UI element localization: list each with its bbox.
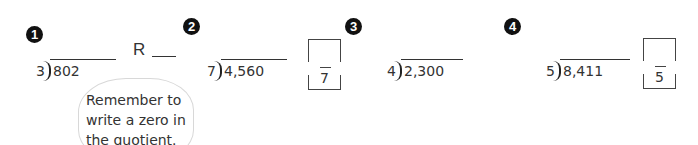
division-problem-3: 4 2,300 xyxy=(387,62,487,92)
quotient-line[interactable] xyxy=(401,59,463,60)
fraction-bar xyxy=(320,67,331,68)
box-edge xyxy=(308,89,341,90)
dividend: 4,560 xyxy=(224,62,264,80)
quotient-line[interactable] xyxy=(560,59,630,60)
hint-text: Remember to write a zero in the quotient… xyxy=(86,90,192,145)
remainder-fraction-box-4[interactable]: 5 xyxy=(643,38,676,89)
dividend: 802 xyxy=(53,62,80,80)
problem-number-badge-1: 1 xyxy=(26,26,43,43)
fraction-denominator: 5 xyxy=(643,69,676,86)
fraction-denominator: 7 xyxy=(308,70,341,87)
quotient-line[interactable] xyxy=(221,59,287,60)
dividend: 8,411 xyxy=(563,62,603,80)
box-edge xyxy=(308,39,309,62)
problem-number-badge-2: 2 xyxy=(183,18,200,35)
fraction-bar xyxy=(655,66,666,67)
division-bracket-icon xyxy=(553,61,561,81)
division-bracket-icon xyxy=(43,61,51,81)
remainder-label: R xyxy=(133,40,145,60)
box-edge xyxy=(675,38,676,61)
box-edge xyxy=(643,38,644,61)
dividend: 2,300 xyxy=(404,62,444,80)
problem-number-badge-3: 3 xyxy=(345,18,362,35)
box-edge xyxy=(308,39,341,40)
remainder-fraction-box-2[interactable]: 7 xyxy=(308,39,341,90)
box-edge xyxy=(643,88,676,89)
division-bracket-icon xyxy=(394,61,402,81)
problem-number-badge-4: 4 xyxy=(504,18,521,35)
quotient-line[interactable] xyxy=(50,59,116,60)
box-edge xyxy=(643,38,676,39)
remainder-blank[interactable] xyxy=(152,56,176,57)
division-problem-4: 5 8,411 xyxy=(546,62,646,92)
division-bracket-icon xyxy=(214,61,222,81)
division-problem-2: 7 4,560 xyxy=(207,62,307,92)
box-edge xyxy=(340,39,341,62)
